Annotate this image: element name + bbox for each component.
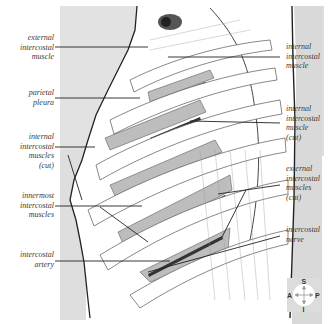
label-line: pleura <box>29 98 54 108</box>
orientation-compass: S I A P <box>287 278 321 312</box>
label-line: innermost <box>20 191 54 201</box>
label-line: muscle <box>286 61 320 71</box>
label-external-intercostal-muscle: external intercostal muscle <box>20 33 54 62</box>
compass-superior: S <box>302 278 307 285</box>
label-intercostal-artery: intercostal artery <box>20 250 54 269</box>
label-internal-intercostal-muscle-cut: internal intercostal muscle (cut) <box>286 104 320 142</box>
label-line: muscles <box>20 151 54 161</box>
label-line: parietal <box>29 88 54 98</box>
label-line: external <box>286 164 320 174</box>
label-line: artery <box>20 260 54 270</box>
label-line: muscles <box>20 210 54 220</box>
label-line: (cut) <box>20 161 54 171</box>
label-line: nerve <box>286 235 320 245</box>
label-line: muscle <box>286 123 320 133</box>
label-line: muscle <box>20 52 54 62</box>
label-line: intercostal <box>20 250 54 260</box>
label-external-intercostal-muscles-cut: external intercostal muscles (cut) <box>286 164 320 202</box>
compass-posterior: P <box>315 292 320 299</box>
label-line: intercostal <box>286 114 320 124</box>
compass-anterior: A <box>287 292 292 299</box>
label-line: intercostal <box>286 225 320 235</box>
label-internal-intercostal-muscles-cut: internal intercostal muscles (cut) <box>20 132 54 170</box>
label-line: intercostal <box>286 52 320 62</box>
label-line: intercostal <box>286 174 320 184</box>
label-internal-intercostal-muscle: internal intercostal muscle <box>286 42 320 71</box>
label-line: internal <box>286 104 320 114</box>
label-line: muscles <box>286 183 320 193</box>
compass-inferior: I <box>303 306 305 313</box>
label-line: intercostal <box>20 142 54 152</box>
label-intercostal-nerve: intercostal nerve <box>286 225 320 244</box>
label-line: (cut) <box>286 133 320 143</box>
label-parietal-pleura: parietal pleura <box>29 88 54 107</box>
label-line: intercostal <box>20 43 54 53</box>
label-line: external <box>20 33 54 43</box>
label-innermost-intercostal-muscles: innermost intercostal muscles <box>20 191 54 220</box>
label-line: intercostal <box>20 201 54 211</box>
label-line: (cut) <box>286 193 320 203</box>
label-line: internal <box>20 132 54 142</box>
label-line: internal <box>286 42 320 52</box>
